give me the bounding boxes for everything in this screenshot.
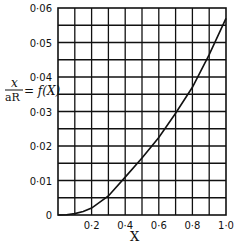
y-tick-label: 0·02 [30, 141, 52, 152]
y-tick-label: 0·04 [30, 72, 52, 83]
y-tick-label: 0·05 [30, 38, 52, 49]
x-tick-label: 0·2 [84, 220, 100, 231]
chart: 00·010·020·030·040·050·06 0·20·40·60·81·… [0, 0, 237, 248]
y-tick-label: 0·03 [30, 107, 52, 118]
x-axis-ticks: 0·20·40·60·81·0 [84, 220, 234, 231]
y-tick-label: 0·06 [30, 3, 52, 14]
x-tick-label: 0·8 [184, 220, 200, 231]
x-axis-label: X [130, 229, 140, 244]
grid-lines [58, 8, 226, 215]
y-label-denominator: aR [5, 91, 21, 104]
y-tick-label: 0·01 [30, 176, 52, 187]
y-label-rhs: = f(X) [24, 84, 61, 98]
y-axis-ticks: 00·010·020·030·040·050·06 [30, 3, 52, 221]
x-tick-label: 0·6 [151, 220, 167, 231]
x-tick-label: 1·0 [218, 220, 234, 231]
y-label-numerator: x [11, 76, 18, 90]
y-tick-label: 0 [46, 210, 52, 221]
